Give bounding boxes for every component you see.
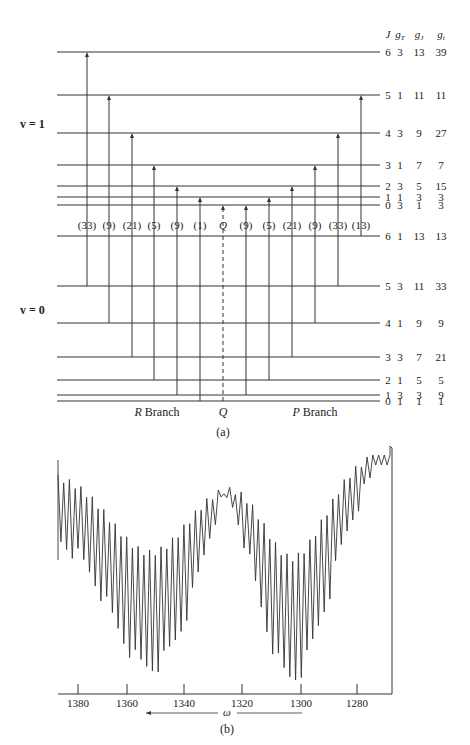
level-value: 3 bbox=[385, 159, 391, 171]
transition-label: (13) bbox=[352, 219, 371, 232]
level-value: 5 bbox=[416, 374, 422, 386]
level-value: 1 bbox=[397, 317, 403, 329]
level-value: 3 bbox=[397, 351, 403, 363]
transition-label: (21) bbox=[283, 219, 302, 232]
level-value: 3 bbox=[397, 280, 403, 292]
level-value: 1 bbox=[416, 199, 422, 211]
level-value: 4 bbox=[385, 127, 391, 139]
level-value: 7 bbox=[438, 159, 444, 171]
transition-label: (33) bbox=[78, 219, 97, 232]
level-value: 27 bbox=[436, 127, 448, 139]
p-branch-label: P Branch bbox=[292, 405, 338, 419]
spectrum-plot: 138013601340132013001280ω(b) bbox=[58, 446, 392, 736]
column-header: J bbox=[386, 28, 392, 40]
level-value: 1 bbox=[397, 374, 403, 386]
transition-label: (5) bbox=[263, 219, 276, 232]
level-value: 13 bbox=[414, 46, 426, 58]
caption-b: (b) bbox=[220, 722, 234, 736]
column-header: gT bbox=[395, 28, 406, 42]
arrow-head-icon bbox=[267, 197, 271, 202]
level-value: 1 bbox=[416, 395, 422, 407]
arrow-head-icon bbox=[244, 205, 248, 210]
x-tick-label: 1280 bbox=[346, 697, 369, 709]
arrow-head-icon bbox=[221, 205, 225, 210]
level-value: 9 bbox=[438, 317, 444, 329]
q-branch-label: Q bbox=[219, 405, 228, 419]
x-tick-label: 1360 bbox=[116, 697, 139, 709]
level-value: 6 bbox=[385, 46, 391, 58]
arrow-head-icon bbox=[130, 133, 134, 138]
lower-state-label: v = 0 bbox=[20, 303, 45, 317]
level-value: 1 bbox=[397, 230, 403, 242]
energy-level-diagram: 6313395111114392731772351511330313611313… bbox=[0, 0, 470, 745]
level-value: 1 bbox=[397, 395, 403, 407]
arrow-head-icon bbox=[198, 197, 202, 202]
level-value: 2 bbox=[385, 374, 391, 386]
level-value: 13 bbox=[436, 230, 448, 242]
level-value: 21 bbox=[436, 351, 447, 363]
transition-label: (9) bbox=[171, 219, 184, 232]
x-axis-label: ω bbox=[223, 706, 231, 718]
left-arrow-icon bbox=[146, 711, 151, 715]
level-value: 0 bbox=[385, 395, 391, 407]
level-value: 11 bbox=[414, 280, 425, 292]
level-value: 7 bbox=[416, 159, 422, 171]
transition-label: (21) bbox=[123, 219, 142, 232]
level-value: 5 bbox=[385, 280, 391, 292]
level-value: 1 bbox=[397, 89, 403, 101]
spectrum-trace bbox=[58, 446, 392, 680]
transition-label: (5) bbox=[148, 219, 161, 232]
transition-label: (9) bbox=[309, 219, 322, 232]
arrow-head-icon bbox=[313, 165, 317, 170]
x-tick-label: 1340 bbox=[173, 697, 196, 709]
transition-label: Q bbox=[219, 219, 227, 231]
level-value: 0 bbox=[385, 199, 391, 211]
column-header: gt bbox=[437, 28, 446, 42]
level-value: 9 bbox=[416, 127, 422, 139]
level-value: 4 bbox=[385, 317, 391, 329]
arrow-head-icon bbox=[290, 186, 294, 191]
level-value: 11 bbox=[414, 89, 425, 101]
level-value: 1 bbox=[438, 395, 444, 407]
arrow-head-icon bbox=[152, 165, 156, 170]
level-value: 3 bbox=[397, 127, 403, 139]
x-tick-label: 1380 bbox=[67, 697, 90, 709]
level-value: 3 bbox=[397, 199, 403, 211]
level-value: 5 bbox=[438, 374, 444, 386]
x-tick-label: 1300 bbox=[290, 697, 313, 709]
level-value: 9 bbox=[416, 317, 422, 329]
level-value: 3 bbox=[397, 46, 403, 58]
level-value: 33 bbox=[436, 280, 448, 292]
transition-label: (33) bbox=[329, 219, 348, 232]
level-value: 7 bbox=[416, 351, 422, 363]
level-value: 5 bbox=[385, 89, 391, 101]
arrow-head-icon bbox=[336, 133, 340, 138]
caption-a: (a) bbox=[216, 425, 229, 439]
level-value: 6 bbox=[385, 230, 391, 242]
x-tick-label: 1320 bbox=[231, 697, 254, 709]
transition-label: (1) bbox=[194, 219, 207, 232]
level-value: 3 bbox=[385, 351, 391, 363]
level-value: 39 bbox=[436, 46, 448, 58]
transition-label: (9) bbox=[240, 219, 253, 232]
level-labels: 6313395111114392731772351511330313611313… bbox=[20, 28, 447, 439]
transition-label: (9) bbox=[103, 219, 116, 232]
level-value: 1 bbox=[397, 159, 403, 171]
arrow-head-icon bbox=[359, 95, 363, 100]
level-value: 11 bbox=[436, 89, 447, 101]
level-value: 13 bbox=[414, 230, 426, 242]
arrow-head-icon bbox=[85, 52, 89, 57]
arrow-head-icon bbox=[107, 95, 111, 100]
level-value: 3 bbox=[438, 199, 444, 211]
upper-state-label: v = 1 bbox=[20, 117, 45, 131]
column-header: gJ bbox=[415, 28, 425, 42]
r-branch-label: R Branch bbox=[134, 405, 180, 419]
arrow-head-icon bbox=[175, 186, 179, 191]
